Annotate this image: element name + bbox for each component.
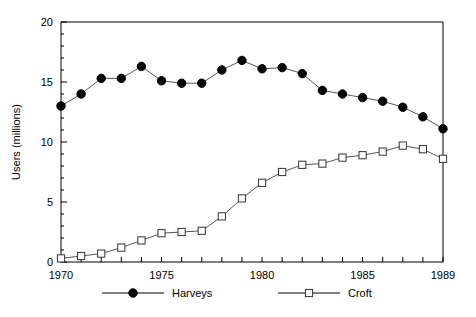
y-axis-title: Users (millions) bbox=[10, 104, 22, 180]
series-line-harveys bbox=[61, 60, 443, 128]
data-point-harveys bbox=[137, 62, 145, 70]
y-axis-tick-label: 0 bbox=[47, 256, 53, 268]
data-point-harveys bbox=[399, 103, 407, 111]
data-point-harveys bbox=[258, 65, 266, 73]
data-point-croft bbox=[379, 148, 386, 155]
x-axis-tick-label: 1985 bbox=[350, 269, 374, 281]
data-point-croft bbox=[319, 160, 326, 167]
data-point-croft bbox=[98, 250, 105, 257]
data-point-harveys bbox=[378, 97, 386, 105]
data-point-harveys bbox=[218, 66, 226, 74]
data-point-harveys bbox=[97, 74, 105, 82]
x-axis-tick-label: 1989 bbox=[431, 269, 455, 281]
y-axis-tick-label: 20 bbox=[41, 16, 53, 28]
data-point-croft bbox=[198, 227, 205, 234]
data-point-croft bbox=[339, 154, 346, 161]
data-point-croft bbox=[399, 142, 406, 149]
legend-label-croft: Croft bbox=[348, 287, 372, 299]
data-point-croft bbox=[57, 255, 64, 262]
data-point-croft bbox=[78, 252, 85, 259]
data-point-harveys bbox=[278, 63, 286, 71]
data-point-croft bbox=[218, 213, 225, 220]
data-point-harveys bbox=[318, 86, 326, 94]
x-axis-tick-label: 1975 bbox=[149, 269, 173, 281]
x-axis-tick-label: 1980 bbox=[250, 269, 274, 281]
series-line-croft bbox=[61, 146, 443, 259]
data-point-harveys bbox=[117, 74, 125, 82]
data-point-harveys bbox=[198, 79, 206, 87]
data-point-croft bbox=[439, 155, 446, 162]
data-point-croft bbox=[238, 195, 245, 202]
data-point-harveys bbox=[177, 79, 185, 87]
data-point-croft bbox=[118, 244, 125, 251]
legend-marker-croft bbox=[305, 289, 312, 296]
y-axis-tick-label: 10 bbox=[41, 136, 53, 148]
data-point-croft bbox=[279, 168, 286, 175]
data-point-harveys bbox=[157, 77, 165, 85]
data-point-croft bbox=[299, 161, 306, 168]
x-axis-tick-label: 1970 bbox=[49, 269, 73, 281]
chart-container: 0510152019701975198019851989Users (milli… bbox=[0, 0, 476, 317]
data-point-harveys bbox=[298, 69, 306, 77]
legend-label-harveys: Harveys bbox=[172, 287, 213, 299]
data-point-harveys bbox=[338, 90, 346, 98]
data-point-harveys bbox=[77, 90, 85, 98]
data-point-croft bbox=[158, 230, 165, 237]
data-point-harveys bbox=[57, 102, 65, 110]
data-point-harveys bbox=[419, 113, 427, 121]
line-chart: 0510152019701975198019851989Users (milli… bbox=[0, 0, 476, 317]
data-point-croft bbox=[178, 228, 185, 235]
data-point-croft bbox=[419, 146, 426, 153]
data-point-croft bbox=[258, 179, 265, 186]
legend-marker-harveys bbox=[129, 289, 137, 297]
y-axis-tick-label: 15 bbox=[41, 76, 53, 88]
data-point-croft bbox=[138, 237, 145, 244]
data-point-harveys bbox=[439, 125, 447, 133]
data-point-harveys bbox=[358, 93, 366, 101]
y-axis-tick-label: 5 bbox=[47, 196, 53, 208]
data-point-croft bbox=[359, 152, 366, 159]
data-point-harveys bbox=[238, 56, 246, 64]
plot-frame bbox=[61, 22, 443, 262]
